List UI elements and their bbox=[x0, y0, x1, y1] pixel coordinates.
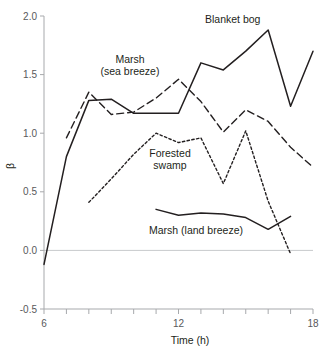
y-tick-label: 2.0 bbox=[23, 11, 37, 22]
series-annotation: (sea breeze) bbox=[101, 65, 160, 77]
series-annotation: Marsh bbox=[115, 53, 144, 65]
y-tick-label: 1.5 bbox=[23, 69, 37, 80]
series-annotation: swamp bbox=[153, 159, 186, 171]
x-tick-label: 6 bbox=[41, 318, 47, 329]
y-axis-title: β bbox=[4, 163, 16, 169]
x-tick-label: 18 bbox=[307, 318, 319, 329]
chart-container: -0.50.00.51.01.52.0 61218 Blanket bogMar… bbox=[0, 0, 324, 350]
y-tick-label: 0.5 bbox=[23, 186, 37, 197]
series-annotation: Marsh (land breeze) bbox=[149, 224, 243, 236]
y-tick-label: -0.5 bbox=[20, 304, 38, 315]
beta-vs-time-line-chart: -0.50.00.51.01.52.0 61218 Blanket bogMar… bbox=[0, 0, 324, 350]
y-tick-label: 1.0 bbox=[23, 128, 37, 139]
series-annotation: Forested bbox=[149, 147, 191, 159]
y-tick-label: 0.0 bbox=[23, 245, 37, 256]
x-tick-label: 12 bbox=[173, 318, 185, 329]
series-annotation: Blanket bog bbox=[205, 13, 261, 25]
x-axis-title: Time (h) bbox=[171, 334, 210, 346]
